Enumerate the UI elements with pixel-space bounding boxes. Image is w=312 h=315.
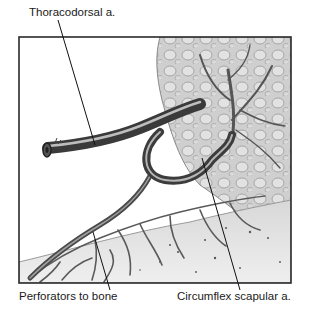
illustration [0, 0, 312, 315]
bone-surface [19, 200, 291, 283]
label-circumflex-scapular-artery: Circumflex scapular a. [177, 291, 291, 303]
label-thoracodorsal-artery: Thoracodorsal a. [29, 7, 115, 19]
leader-thoracodorsal [58, 20, 95, 145]
label-perforators-to-bone: Perforators to bone [19, 291, 117, 303]
